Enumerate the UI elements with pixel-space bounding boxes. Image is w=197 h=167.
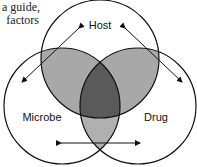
label-microbe: Microbe bbox=[22, 111, 61, 123]
venn-diagram: Host Microbe Drug bbox=[0, 0, 197, 167]
label-drug: Drug bbox=[144, 111, 168, 123]
label-host: Host bbox=[89, 19, 112, 31]
